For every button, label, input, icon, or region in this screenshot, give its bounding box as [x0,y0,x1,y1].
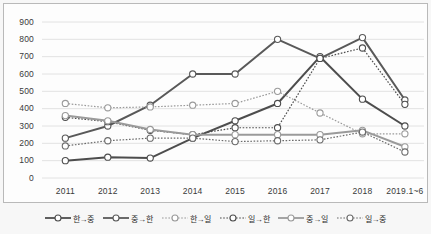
legend-item[interactable]: 일→한 [220,213,269,224]
data-point-marker [147,126,153,132]
legend-item[interactable]: 일→중 [337,213,386,224]
data-point-marker [62,135,68,141]
chart-container: 9008007006005004003002001000 20112012201… [0,0,431,234]
data-point-marker [232,125,238,131]
data-point-marker [147,135,153,141]
data-point-marker [62,143,68,149]
data-point-marker [105,118,111,124]
legend-line-marker-icon [45,213,71,223]
data-point-marker [62,100,68,106]
chart-legend: 한→중중→한한→일일→한중→일일→중 [0,208,431,228]
data-point-marker [190,135,196,141]
data-point-marker [274,88,280,94]
data-point-marker [232,132,238,138]
data-point-marker [232,100,238,106]
legend-line-marker-icon [278,213,304,223]
series-layer [62,35,408,164]
data-point-marker [147,104,153,110]
data-point-marker [274,132,280,138]
legend-line-marker-icon [162,213,188,223]
legend-item[interactable]: 중→한 [103,213,152,224]
data-point-marker [274,125,280,131]
legend-label: 한→중 [73,213,94,224]
legend-label: 중→일 [306,213,327,224]
data-point-marker [274,100,280,106]
data-point-marker [62,113,68,119]
data-point-marker [105,154,111,160]
data-point-marker [62,158,68,164]
legend-label: 일→한 [248,213,269,224]
data-point-marker [274,138,280,144]
data-point-marker [232,71,238,77]
legend-item[interactable]: 중→일 [278,213,327,224]
data-point-marker [147,155,153,161]
data-point-marker [359,129,365,135]
data-point-marker [190,102,196,108]
data-point-marker [317,55,323,61]
data-point-marker [359,96,365,102]
data-point-marker [105,138,111,144]
data-point-marker [359,35,365,41]
data-point-marker [402,101,408,107]
data-point-marker [359,45,365,51]
data-point-marker [402,149,408,155]
legend-item[interactable]: 한→중 [45,213,94,224]
chart-plot-area [0,0,431,234]
data-point-marker [105,105,111,111]
data-point-marker [402,131,408,137]
legend-label: 일→중 [365,213,386,224]
data-point-marker [402,123,408,129]
legend-line-marker-icon [337,213,363,223]
legend-label: 한→일 [190,213,211,224]
data-point-marker [317,137,323,143]
data-point-marker [317,110,323,116]
data-point-marker [274,36,280,42]
legend-line-marker-icon [103,213,129,223]
legend-label: 중→한 [131,213,152,224]
data-point-marker [232,118,238,124]
legend-line-marker-icon [220,213,246,223]
data-point-marker [232,139,238,145]
legend-item[interactable]: 한→일 [162,213,211,224]
data-point-marker [190,71,196,77]
